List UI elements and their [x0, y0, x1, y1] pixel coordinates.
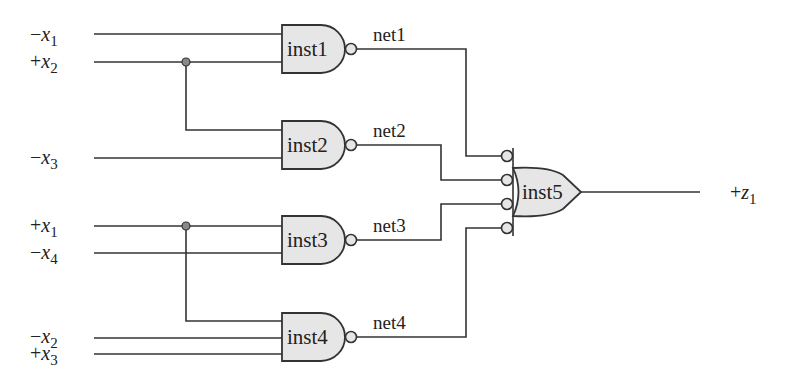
- gate-inst1: inst1: [282, 25, 357, 73]
- input-label-pos-x1: +x1: [30, 214, 58, 240]
- wire-pos-x1-branch: [186, 226, 282, 321]
- junction-dot-x2: [182, 58, 190, 66]
- gate-label-inst2: inst2: [287, 133, 328, 157]
- gate-inst4: inst4: [282, 313, 357, 361]
- input-label-neg-x1: −x1: [30, 23, 58, 49]
- gate-label-inst4: inst4: [287, 325, 328, 349]
- wire-net2: [357, 145, 501, 180]
- net-label-net1: net1: [373, 24, 406, 45]
- net-label-net4: net4: [373, 312, 406, 333]
- gate-inst3: inst3: [282, 216, 357, 264]
- logic-circuit-diagram: −x1 +x2 −x3 +x1 −x4 −x2 +x3 inst1 inst2 …: [0, 0, 792, 388]
- input-label-neg-x3: −x3: [30, 146, 58, 172]
- net-label-net2: net2: [373, 120, 406, 141]
- gate-label-inst5: inst5: [522, 180, 563, 204]
- input-label-neg-x4: −x4: [30, 241, 58, 267]
- gate-label-inst1: inst1: [287, 37, 328, 61]
- gate-inst5: inst5: [502, 148, 582, 236]
- net-label-net3: net3: [373, 215, 406, 236]
- junction-dot-x1: [182, 222, 190, 230]
- gate-label-inst3: inst3: [287, 228, 328, 252]
- output-label-pos-z1: +z1: [730, 181, 757, 207]
- input-label-pos-x2: +x2: [30, 50, 58, 76]
- gate-inst2: inst2: [282, 121, 357, 169]
- wire-pos-x2-branch: [186, 62, 282, 130]
